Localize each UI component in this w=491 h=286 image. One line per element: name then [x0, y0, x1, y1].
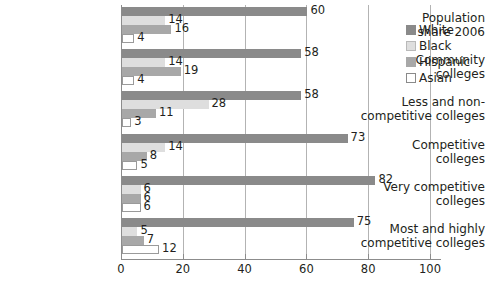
- category-label-line: Less and non-: [335, 95, 485, 109]
- bar-value-asian-1: 4: [137, 75, 144, 84]
- bar-asian-2: [122, 118, 131, 127]
- bar-black-0: [122, 16, 165, 25]
- bar-hispanic-5: [122, 236, 144, 245]
- bar-value-black-2: 28: [212, 99, 227, 108]
- category-label-line: Competitive: [335, 138, 485, 152]
- legend-swatch-icon-asian: [406, 73, 416, 83]
- category-label-line: Very competitive: [335, 180, 485, 194]
- x-axis-line: [121, 259, 441, 260]
- bar-value-white-1: 58: [304, 48, 319, 57]
- legend-label: Hispanic: [419, 55, 470, 69]
- bar-value-hispanic-1: 19: [184, 66, 199, 75]
- legend-label: Asian: [419, 71, 452, 85]
- bar-value-white-2: 58: [304, 90, 319, 99]
- bar-value-hispanic-0: 16: [174, 24, 189, 33]
- bar-value-asian-5: 12: [162, 244, 177, 253]
- legend-label: Black: [419, 39, 451, 53]
- x-tick-label-100: 100: [419, 262, 441, 276]
- bar-value-asian-3: 5: [140, 160, 147, 169]
- category-label-5: Most and highlycompetitive colleges: [335, 222, 485, 250]
- category-label-line: colleges: [335, 152, 485, 166]
- bar-value-white-0: 60: [310, 6, 325, 15]
- bar-value-hispanic-3: 8: [150, 151, 157, 160]
- bar-value-asian-4: 6: [144, 202, 151, 211]
- bar-black-5: [122, 227, 137, 236]
- legend-item-asian[interactable]: Asian: [406, 70, 470, 85]
- bar-hispanic-4: [122, 194, 141, 203]
- bar-value-hispanic-2: 11: [159, 108, 174, 117]
- category-label-4: Very competitivecolleges: [335, 180, 485, 208]
- bar-asian-4: [122, 203, 141, 212]
- x-tick-0: [121, 254, 122, 260]
- bar-white-3: [122, 134, 348, 143]
- x-tick-80: [368, 254, 369, 260]
- x-tick-label-40: 40: [237, 262, 252, 276]
- bar-hispanic-0: [122, 25, 171, 34]
- category-label-2: Less and non-competitive colleges: [335, 95, 485, 123]
- bar-asian-3: [122, 161, 137, 170]
- legend-swatch-icon-hispanic: [406, 57, 416, 67]
- legend-label: White: [419, 23, 454, 37]
- category-label-line: colleges: [335, 194, 485, 208]
- bar-value-hispanic-5: 7: [147, 235, 154, 244]
- bar-white-1: [122, 49, 301, 58]
- category-label-3: Competitivecolleges: [335, 138, 485, 166]
- bar-value-asian-2: 3: [134, 117, 141, 126]
- category-label-line: competitive colleges: [335, 236, 485, 250]
- x-tick-40: [245, 254, 246, 260]
- bar-asian-0: [122, 34, 134, 43]
- bar-white-0: [122, 7, 307, 16]
- bar-hispanic-1: [122, 67, 181, 76]
- bar-black-4: [122, 185, 141, 194]
- x-tick-label-0: 0: [117, 262, 124, 276]
- plot-area: 60141645814194582811373148582666755712: [121, 5, 430, 259]
- bar-value-black-1: 14: [168, 57, 183, 66]
- legend-swatch-icon-white: [406, 25, 416, 35]
- legend-item-black[interactable]: Black: [406, 38, 470, 53]
- bar-white-5: [122, 218, 354, 227]
- x-tick-label-20: 20: [175, 262, 190, 276]
- x-tick-label-60: 60: [299, 262, 314, 276]
- bar-value-asian-0: 4: [137, 33, 144, 42]
- x-tick-60: [306, 254, 307, 260]
- bar-asian-5: [122, 245, 159, 254]
- x-tick-100: [430, 254, 431, 260]
- legend: WhiteBlackHispanicAsian: [406, 22, 470, 85]
- bar-asian-1: [122, 76, 134, 85]
- category-label-line: Most and highly: [335, 222, 485, 236]
- x-tick-label-80: 80: [361, 262, 376, 276]
- bar-value-black-3: 14: [168, 142, 183, 151]
- legend-item-white[interactable]: White: [406, 22, 470, 37]
- x-tick-20: [183, 254, 184, 260]
- legend-swatch-icon-black: [406, 41, 416, 51]
- bar-black-3: [122, 143, 165, 152]
- category-label-line: competitive colleges: [335, 109, 485, 123]
- bar-black-1: [122, 58, 165, 67]
- bar-chart: 60141645814194582811373148582666755712 P…: [0, 0, 491, 286]
- legend-item-hispanic[interactable]: Hispanic: [406, 54, 470, 69]
